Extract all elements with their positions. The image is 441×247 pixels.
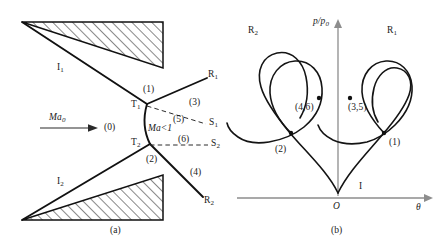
label-region-2: (2) xyxy=(146,155,157,165)
lower-wedge xyxy=(22,175,163,220)
panel-b-caption: (b) xyxy=(331,226,342,236)
label-triple-point-t1: T1 xyxy=(131,100,140,111)
point-2-marker xyxy=(289,131,293,135)
label-region-6: (6) xyxy=(178,135,189,145)
panel-b-graphics xyxy=(227,19,433,202)
label-point-2: (2) xyxy=(275,145,286,155)
label-reflected-shock-r2: R2 xyxy=(204,196,214,207)
point-35-marker xyxy=(348,96,352,100)
label-incident-shock-i2: I2 xyxy=(57,177,64,188)
polar-incident-left-branch xyxy=(259,53,338,193)
x-axis-arrowhead xyxy=(424,194,433,202)
label-region-0: (0) xyxy=(104,123,115,133)
freestream-arrow xyxy=(40,124,98,132)
label-subsonic-region: Ma<1 xyxy=(148,124,172,134)
label-slip-line-s1: S1 xyxy=(209,118,218,129)
label-region-4: (4) xyxy=(190,168,201,178)
label-region-3: (3) xyxy=(189,98,200,108)
panel-a-caption: (a) xyxy=(110,226,121,236)
label-region-5: (5) xyxy=(173,115,184,125)
label-incident-shock-i1: I1 xyxy=(57,63,64,74)
label-polar-r1: R1 xyxy=(387,26,397,37)
label-point-46: (4,6) xyxy=(295,103,314,113)
label-origin: O xyxy=(333,202,340,212)
axes xyxy=(237,19,433,202)
figure-root: I1 I2 Ma0 (0) (1) (2) (3) (4) (5) (6) T1… xyxy=(0,0,441,247)
label-freestream-mach: Ma0 xyxy=(49,113,65,124)
label-point-1: (1) xyxy=(389,138,400,148)
label-triple-point-t2: T2 xyxy=(131,138,140,149)
label-polar-r2: R2 xyxy=(248,26,258,37)
point-1-marker xyxy=(382,131,386,135)
label-point-35: (3,5) xyxy=(348,103,367,113)
polar-incident-right-branch xyxy=(338,68,411,193)
point-46-marker xyxy=(317,96,321,100)
label-slip-line-s2: S2 xyxy=(211,139,220,150)
label-x-axis: θ xyxy=(416,203,421,213)
label-y-axis: p/p0 xyxy=(313,17,329,28)
y-axis-arrowhead xyxy=(334,19,342,28)
figure-canvas xyxy=(0,0,441,247)
label-region-1: (1) xyxy=(143,85,154,95)
label-incident-polar: I xyxy=(359,182,362,192)
label-reflected-shock-r1: R1 xyxy=(208,70,218,81)
upper-wedge xyxy=(22,22,163,68)
